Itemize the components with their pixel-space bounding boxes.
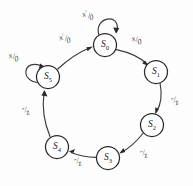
edge-s5-s0 xyxy=(58,48,91,70)
state-node-s5[interactable] xyxy=(37,66,60,89)
state-node-s4[interactable] xyxy=(46,136,69,159)
state-diagram-canvas: S0 S1 S2 S3 S4 S5 x′⁄0 x⁄0 -⁄z -⁄z -⁄z -… xyxy=(0,0,193,186)
arrowhead-s4-s5 xyxy=(41,90,47,97)
selfloop-s0 xyxy=(98,19,117,35)
arrowhead-s2-s3 xyxy=(119,148,125,154)
state-node-s0[interactable] xyxy=(94,34,117,57)
edge-s1-s2 xyxy=(157,83,162,112)
state-node-s2[interactable] xyxy=(141,114,164,137)
state-machine-graphics xyxy=(0,0,193,186)
edge-s4-s5 xyxy=(43,93,50,137)
edge-s0-s1 xyxy=(116,50,147,64)
edge-s3-s4 xyxy=(71,153,97,158)
state-node-s3[interactable] xyxy=(97,147,120,170)
state-node-s1[interactable] xyxy=(145,61,168,84)
arrowhead-selfloop-s0 xyxy=(113,27,119,33)
edge-s2-s3 xyxy=(122,133,144,153)
arrowhead-s5-s0 xyxy=(86,47,93,52)
